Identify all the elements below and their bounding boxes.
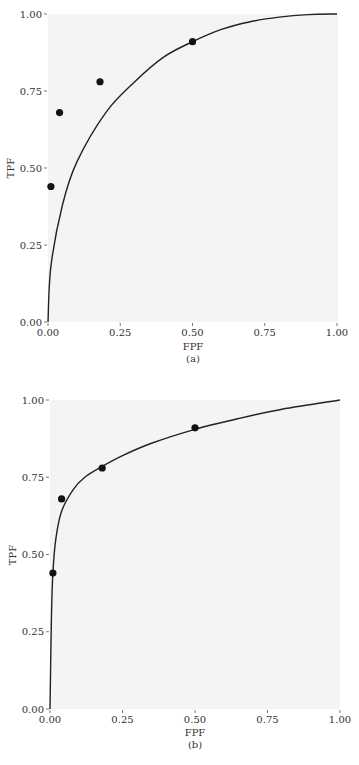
- x-tick-label: 0.00: [39, 714, 61, 725]
- y-tick-label: 0.25: [20, 240, 42, 251]
- x-tick-label: 0.75: [256, 714, 278, 725]
- data-point: [99, 464, 106, 471]
- roc-chart-b: 0.000.000.250.250.500.500.750.751.001.00…: [0, 380, 359, 765]
- y-tick-label: 1.00: [20, 9, 42, 20]
- y-tick-label: 1.00: [22, 395, 44, 406]
- y-tick-label: 0.50: [22, 549, 44, 560]
- x-axis-label: FPF: [183, 341, 204, 352]
- x-tick-label: 0.00: [37, 327, 59, 338]
- panel-label: (b): [188, 739, 202, 750]
- x-tick-label: 0.25: [111, 714, 133, 725]
- x-tick-label: 0.25: [109, 327, 131, 338]
- y-tick-label: 0.50: [20, 163, 42, 174]
- y-tick-label: 0.00: [20, 317, 42, 328]
- x-tick-label: 0.75: [254, 327, 276, 338]
- y-tick-label: 0.00: [22, 704, 44, 715]
- panel-label: (a): [186, 353, 200, 364]
- data-point: [189, 38, 196, 45]
- x-tick-label: 1.00: [329, 714, 351, 725]
- y-axis-label: TPF: [5, 158, 16, 178]
- y-tick-label: 0.75: [20, 86, 42, 97]
- x-tick-label: 0.50: [184, 714, 206, 725]
- y-tick-label: 0.75: [22, 472, 44, 483]
- plot-area: [50, 400, 340, 709]
- y-axis-label: TPF: [7, 545, 18, 565]
- roc-chart-a: 0.000.000.250.250.500.500.750.751.001.00…: [0, 0, 359, 380]
- x-tick-label: 0.50: [181, 327, 203, 338]
- data-point: [56, 109, 63, 116]
- plot-area: [48, 14, 338, 322]
- x-tick-label: 1.00: [326, 327, 348, 338]
- x-axis-label: FPF: [185, 727, 206, 738]
- data-point: [49, 569, 56, 576]
- data-point: [191, 424, 198, 431]
- data-point: [96, 78, 103, 85]
- data-point: [47, 183, 54, 190]
- data-point: [58, 495, 65, 502]
- y-tick-label: 0.25: [22, 626, 44, 637]
